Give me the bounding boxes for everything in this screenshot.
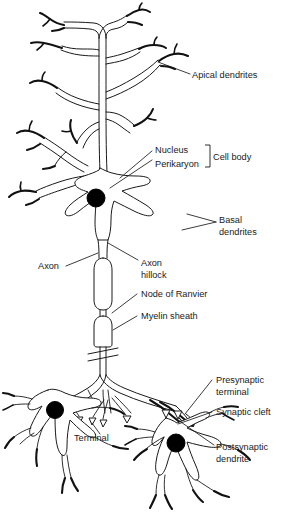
label-apical-dendrites: Apical dendrites (192, 70, 258, 80)
leader-axon (66, 253, 98, 266)
soma-cell-body (65, 168, 153, 240)
nucleus-marker (87, 189, 105, 207)
terminal-bouton (100, 420, 107, 427)
label-nucleus: Nucleus (155, 145, 189, 155)
neuron-diagram-svg: Apical dendrites Nucleus Perikaryon Cell… (0, 0, 288, 518)
axon-with-myelin (88, 240, 118, 375)
leader-nucleus (120, 151, 152, 178)
cell-body-bracket (205, 145, 210, 167)
label-node-of-ranvier: Node of Ranvier (141, 289, 207, 299)
nucleus-marker (47, 402, 64, 419)
label-axon-hillock-line2: hillock (141, 270, 167, 280)
leader-presynaptic-terminal (185, 380, 212, 414)
leader-node-of-ranvier (112, 294, 137, 313)
label-postsynaptic-line2: dendrite (216, 454, 249, 464)
terminal-bouton (123, 416, 131, 423)
label-basal-line1: Basal (219, 215, 242, 225)
label-presynaptic-line2: terminal (216, 387, 249, 397)
label-basal-line2: dendrites (219, 227, 257, 237)
leader-apical-dendrites (158, 62, 190, 74)
label-postsynaptic-line1: Postsynaptic (216, 442, 268, 452)
label-axon-hillock-line1: Axon (141, 258, 162, 268)
leader-basal-dendrites (182, 214, 216, 230)
leader-myelin-sheath (113, 316, 137, 330)
label-terminal: Terminal (74, 433, 109, 443)
label-myelin-sheath: Myelin sheath (141, 311, 198, 321)
label-presynaptic-line1: Presynaptic (216, 375, 264, 385)
label-perikaryon: Perikaryon (155, 159, 199, 169)
label-synaptic-cleft: Synaptic cleft (216, 407, 271, 417)
leader-axon-hillock (108, 243, 138, 260)
label-axon: Axon (38, 261, 59, 271)
nucleus-marker (167, 434, 185, 452)
left-target-neuron (3, 389, 128, 493)
label-cell-body: Cell body (213, 152, 252, 162)
neuron-diagram-page: Apical dendrites Nucleus Perikaryon Cell… (0, 0, 288, 518)
